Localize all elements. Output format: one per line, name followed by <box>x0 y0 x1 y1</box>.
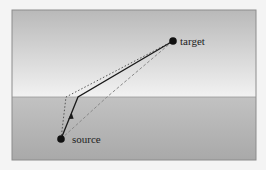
source-label: source <box>72 133 101 145</box>
target-node <box>169 37 177 45</box>
lower-medium <box>12 97 256 160</box>
upper-medium <box>12 10 256 97</box>
refraction-diagram: source target <box>0 0 266 170</box>
source-node <box>57 135 65 143</box>
target-label: target <box>180 35 205 47</box>
